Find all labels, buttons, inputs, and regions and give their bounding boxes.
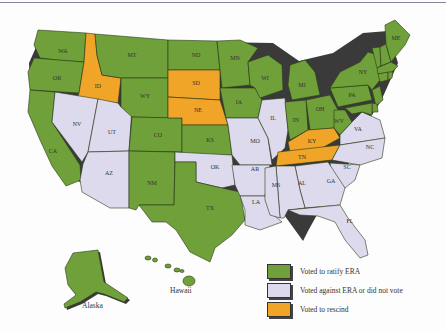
svg-text:VA: VA: [354, 126, 363, 132]
svg-text:IN: IN: [293, 117, 300, 123]
svg-text:FL: FL: [346, 218, 353, 224]
svg-text:PA: PA: [348, 92, 356, 98]
legend: Voted to ratify ERA Voted against ERA or…: [267, 262, 403, 319]
svg-text:MN: MN: [230, 55, 240, 61]
legend-swatch-against: [267, 283, 291, 298]
state-de: [372, 103, 378, 112]
svg-text:SC: SC: [343, 164, 350, 170]
svg-text:NM: NM: [147, 180, 157, 186]
legend-label: Voted against ERA or did not vote: [300, 286, 403, 295]
svg-text:NC: NC: [366, 144, 374, 150]
legend-label: Voted to ratify ERA: [300, 267, 360, 276]
legend-label: Voted to rescind: [300, 305, 349, 314]
legend-item-against: Voted against ERA or did not vote: [267, 281, 403, 300]
legend-item-rescinded: Voted to rescind: [267, 300, 403, 319]
hawaii-label: Hawaii: [170, 286, 192, 295]
svg-text:AR: AR: [251, 166, 259, 172]
svg-text:MO: MO: [250, 138, 260, 144]
legend-item-ratified: Voted to ratify ERA: [267, 262, 403, 281]
svg-text:AZ: AZ: [105, 170, 113, 176]
svg-text:LA: LA: [252, 199, 261, 205]
svg-text:IL: IL: [270, 115, 276, 121]
legend-swatch-rescinded: [267, 302, 291, 317]
svg-text:WY: WY: [140, 93, 151, 99]
state-ri: [388, 72, 393, 80]
svg-text:OK: OK: [211, 164, 220, 170]
svg-text:WI: WI: [261, 75, 269, 81]
svg-text:TX: TX: [206, 205, 215, 211]
legend-swatch-ratified: [267, 264, 291, 279]
svg-text:WA: WA: [58, 48, 68, 54]
svg-text:TN: TN: [298, 154, 307, 160]
svg-text:SD: SD: [192, 80, 200, 86]
svg-text:UT: UT: [108, 129, 116, 135]
svg-text:OR: OR: [53, 75, 61, 81]
svg-text:NE: NE: [194, 107, 202, 113]
svg-text:ID: ID: [95, 83, 102, 89]
state-wa: [34, 30, 86, 62]
alaska-label: Alaska: [82, 301, 103, 310]
svg-text:KS: KS: [206, 137, 214, 143]
svg-text:NV: NV: [73, 121, 82, 127]
svg-text:NY: NY: [359, 69, 368, 75]
svg-text:MI: MI: [298, 82, 305, 88]
svg-text:OH: OH: [316, 106, 325, 112]
svg-text:IA: IA: [236, 99, 243, 105]
svg-text:GA: GA: [327, 178, 336, 184]
svg-text:AL: AL: [298, 180, 306, 186]
svg-text:ME: ME: [392, 35, 401, 41]
svg-text:MS: MS: [272, 182, 281, 188]
svg-text:CO: CO: [154, 132, 163, 138]
state-ct: [378, 72, 388, 82]
svg-text:MT: MT: [128, 52, 137, 58]
svg-text:WV: WV: [334, 118, 345, 124]
state-hi: [145, 256, 195, 286]
svg-text:KY: KY: [308, 138, 317, 144]
state-az: [80, 151, 129, 208]
svg-text:ND: ND: [192, 52, 201, 58]
svg-text:CA: CA: [49, 148, 58, 154]
